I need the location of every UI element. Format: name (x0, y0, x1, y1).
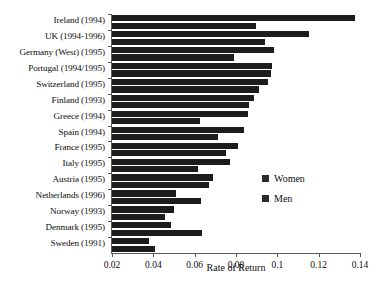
legend-item-men: Men (262, 190, 332, 206)
bar-men (112, 39, 265, 45)
category-label: Denmark (1995) (45, 222, 105, 232)
category-label: Germany (West) (1995) (20, 47, 105, 57)
bar-men (112, 86, 259, 92)
bar-women (112, 15, 355, 21)
bar-women (112, 159, 230, 165)
bar-men (112, 166, 198, 172)
legend-label-women: Women (274, 173, 305, 184)
bar-women (112, 127, 244, 133)
legend-swatch-men-icon (262, 195, 269, 202)
plot-area: 0.020.040.060.080.10.120.14 (112, 14, 360, 253)
bar-women (112, 190, 176, 196)
bar-men (112, 23, 256, 29)
bar-women (112, 47, 274, 53)
bar-women (112, 95, 254, 101)
bar-men (112, 118, 200, 124)
bar-women (112, 79, 268, 85)
x-axis-tick (153, 253, 154, 257)
category-label: Sweden (1991) (50, 238, 105, 248)
bar-women (112, 206, 174, 212)
bar-women (112, 143, 238, 149)
category-label: Ireland (1994) (54, 15, 105, 25)
category-label: Portugal (1994/1995) (28, 63, 105, 73)
category-label: UK (1994-1996) (45, 31, 105, 41)
category-label: Greece (1994) (54, 111, 106, 121)
chart-legend: Women Men (262, 170, 332, 210)
bar-women (112, 222, 171, 228)
bar-women (112, 111, 248, 117)
category-axis-labels: Ireland (1994)UK (1994-1996)Germany (Wes… (0, 13, 108, 253)
bar-women (112, 174, 213, 180)
legend-swatch-women-icon (262, 175, 269, 182)
bar-men (112, 246, 155, 252)
bar-men (112, 182, 209, 188)
bar-men (112, 214, 165, 220)
category-label: Spain (1994) (58, 127, 105, 137)
x-axis-tick (360, 253, 361, 257)
bar-chart: Ireland (1994)UK (1994-1996)Germany (Wes… (0, 0, 390, 299)
x-axis-tick (112, 253, 113, 257)
x-axis-tick (319, 253, 320, 257)
bar-men (112, 134, 218, 140)
bar-men (112, 198, 201, 204)
bar-men (112, 102, 249, 108)
legend-label-men: Men (274, 193, 292, 204)
bar-women (112, 238, 149, 244)
bar-women (112, 63, 272, 69)
bar-men (112, 150, 226, 156)
bar-men (112, 54, 234, 60)
bar-men (112, 230, 202, 236)
category-label: Finland (1993) (52, 95, 105, 105)
category-label: Netherlands (1996) (36, 190, 105, 200)
x-axis-tick (236, 253, 237, 257)
bar-men (112, 70, 271, 76)
category-label: Norway (1993) (50, 206, 105, 216)
x-axis-tick (195, 253, 196, 257)
category-label: France (1995) (55, 142, 106, 152)
category-label: Switzerland (1995) (36, 79, 105, 89)
bar-women (112, 31, 309, 37)
category-label: Italy (1995) (63, 158, 105, 168)
category-label: Austria (1995) (53, 174, 105, 184)
x-axis-tick (277, 253, 278, 257)
x-axis-title: Rate of Return (112, 262, 360, 273)
legend-item-women: Women (262, 170, 332, 186)
